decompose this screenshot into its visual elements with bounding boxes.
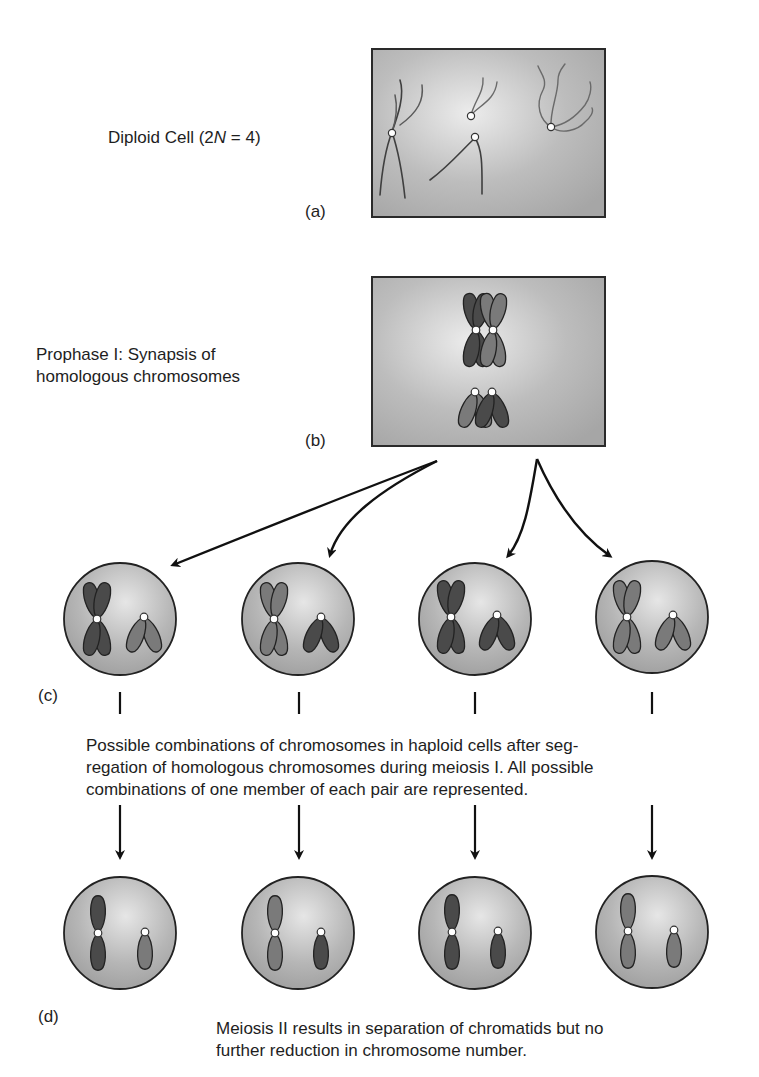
meiosis-i-caption-line2: regation of homologous chromosomes durin… [86, 757, 593, 779]
centromere [488, 388, 496, 396]
meiosis-i-caption-line1: Possible combinations of chromosomes in … [86, 735, 578, 757]
cell-d-3 [419, 877, 531, 989]
meiosis-ii-caption-line2: further reduction in chromosome number. [216, 1040, 527, 1062]
cell-c-1 [64, 563, 176, 675]
centromere [471, 133, 478, 140]
arrow-to-cell-3 [508, 459, 537, 556]
centromere [471, 388, 479, 396]
centromere [467, 112, 474, 119]
cell-d-4 [596, 876, 708, 988]
meiosis-ii-caption-line1: Meiosis II results in separation of chro… [216, 1018, 603, 1040]
centromere [489, 326, 497, 334]
cell-c-4 [596, 561, 708, 673]
meiosis-i-caption-line3: combinations of one member of each pair … [86, 779, 528, 801]
cell-c-2 [242, 563, 354, 675]
cell-d-2 [242, 877, 354, 989]
prophase-label-line1: Prophase I: Synapsis of [36, 344, 216, 366]
centromere [388, 129, 395, 136]
panel-c-letter: (c) [38, 686, 58, 706]
prophase-label-line2: homologous chromosomes [36, 366, 240, 388]
segregation-arrows [173, 459, 610, 565]
cell-c-3 [419, 563, 531, 675]
arrow-to-cell-2 [330, 461, 437, 555]
centromere [472, 326, 480, 334]
panel-d-letter: (d) [38, 1007, 59, 1027]
connector-ticks [120, 692, 652, 714]
meiosis-ii-arrows [120, 805, 652, 857]
panel-a-letter: (a) [305, 202, 326, 222]
arrow-to-cell-1 [173, 461, 437, 565]
cell-d-1 [64, 877, 176, 989]
panel-a-box [372, 49, 605, 217]
meiosis-diagram [0, 0, 759, 1077]
panel-b-letter: (b) [305, 431, 326, 451]
arrow-to-cell-4 [537, 459, 610, 556]
centromere [547, 123, 554, 130]
panel-b-box [372, 277, 605, 446]
diploid-cell-label: Diploid Cell (2N = 4) [108, 127, 261, 149]
